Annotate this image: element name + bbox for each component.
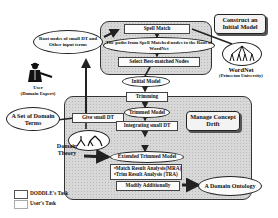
domain-ontology-text: A Domain Ontology <box>204 183 255 190</box>
user-label: User <box>20 85 56 90</box>
integrating-small-dt-text: Integrating small DT <box>124 123 171 129</box>
paths-text: The paths from Spell Matched nodes to th… <box>104 40 214 51</box>
arrow-root-nodes-to-construct <box>104 30 118 37</box>
wordnet-name: WordNet <box>222 66 260 73</box>
analysis-box: •Match Result Analysis(MRA) •Trim Result… <box>110 164 182 180</box>
wordnet-source: (Princeton University) <box>212 73 270 78</box>
user-role-label: (Domain Expert) <box>14 91 62 96</box>
domain-theory-label: Domain Theory <box>52 143 82 156</box>
initial-model-ellipse: Initial Model <box>122 76 170 87</box>
trimming-box: Trimming <box>126 92 168 102</box>
modify-additionally-box: Modify Additionally <box>116 181 180 191</box>
extended-trimmed-model-ellipse: Extended Trimmed Model <box>110 151 184 163</box>
construct-initial-model-label: Construct an Initial Model <box>214 14 266 34</box>
domain-ontology-ellipse: A Domain Ontology <box>198 176 262 196</box>
modify-additionally-text: Modify Additionally <box>126 183 171 189</box>
select-best-matched-box: Select Best-matched Nodes <box>118 57 200 67</box>
root-nodes-text: Root nodes of small DT and Other input t… <box>34 36 102 47</box>
trimming-text: Trimming <box>136 94 158 100</box>
legend-label-doddle: DODDLE's Task <box>30 190 68 196</box>
legend-swatch-doddle <box>14 190 28 199</box>
domain-terms-ellipse: A Set of Domain Terms <box>6 107 60 131</box>
paths-ellipse: The paths from Spell Matched nodes to th… <box>103 37 215 54</box>
trimmed-model-ellipse: Trimmed Model <box>124 107 170 118</box>
manage-concept-drift-label: Manage Concept Drift <box>186 111 240 131</box>
extended-trimmed-model-text: Extended Trimmed Model <box>118 154 176 160</box>
select-best-matched-text: Select Best-matched Nodes <box>129 59 188 65</box>
arrow-theory-to-extended <box>84 156 108 157</box>
tree-hierarchy-icon <box>227 45 257 63</box>
user-icon <box>26 62 56 84</box>
spell-match-box: Spell Match <box>124 24 190 34</box>
manage-concept-drift-text: Manage Concept Drift <box>187 114 239 128</box>
spell-match-text: Spell Match <box>144 26 171 32</box>
arrow-select-to-initial <box>145 67 150 76</box>
wordnet-tree-icon <box>222 42 262 66</box>
integrating-small-dt-box: Integrating small DT <box>116 121 178 131</box>
trimmed-model-text: Trimmed Model <box>129 110 165 116</box>
legend-label-user: User's Task <box>30 200 56 206</box>
give-small-dt-text: Give small DT <box>82 115 114 121</box>
legend-swatch-user <box>14 200 28 209</box>
initial-model-text: Initial Model <box>132 79 161 85</box>
root-nodes-ellipse: Root nodes of small DT and Other input t… <box>33 30 103 54</box>
domain-terms-text: A Set of Domain Terms <box>7 112 59 126</box>
construct-initial-model-text: Construct an Initial Model <box>215 17 265 31</box>
tra-text: •Trim Result Analysis (TRA) <box>114 172 178 178</box>
